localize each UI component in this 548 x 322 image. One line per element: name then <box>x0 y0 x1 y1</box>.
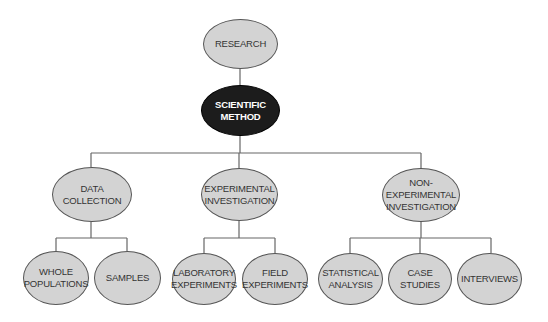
node-scientific-method: SCIENTIFIC METHOD <box>201 85 280 136</box>
node-field-experiments: FIELD EXPERIMENTS <box>242 253 308 305</box>
node-case-studies: CASE STUDIES <box>388 253 452 305</box>
node-samples: SAMPLES <box>94 251 161 305</box>
node-statistical-analysis: STATISTICAL ANALYSIS <box>318 253 383 305</box>
node-non-experimental-investigation: NON- EXPERIMENTAL INVESTIGATION <box>382 168 460 222</box>
node-data-collection: DATA COLLECTION <box>52 167 132 222</box>
research-hierarchy-diagram: RESEARCH SCIENTIFIC METHOD DATA COLLECTI… <box>0 0 548 322</box>
node-research: RESEARCH <box>203 19 278 69</box>
node-experimental-investigation: EXPERIMENTAL INVESTIGATION <box>201 168 278 221</box>
node-whole-populations: WHOLE POPULATIONS <box>23 251 89 305</box>
node-laboratory-experiments: LABORATORY EXPERIMENTS <box>172 253 236 305</box>
node-interviews: INTERVIEWS <box>457 253 522 305</box>
